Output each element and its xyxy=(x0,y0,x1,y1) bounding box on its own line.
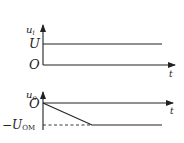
origin-label-bottom: O xyxy=(29,96,40,111)
uo-waveform xyxy=(43,103,162,125)
level-u-label: U xyxy=(29,36,41,51)
output-plot: uo O t −UOM xyxy=(2,89,174,132)
level-uom-label: −UOM xyxy=(2,118,35,132)
origin-label-top: O xyxy=(29,57,40,72)
input-plot: ui U O t xyxy=(26,24,175,79)
t-label-bottom: t xyxy=(170,106,174,116)
t-label-top: t xyxy=(169,69,173,79)
waveform-diagram: ui U O t uo O t −UOM xyxy=(0,0,184,143)
